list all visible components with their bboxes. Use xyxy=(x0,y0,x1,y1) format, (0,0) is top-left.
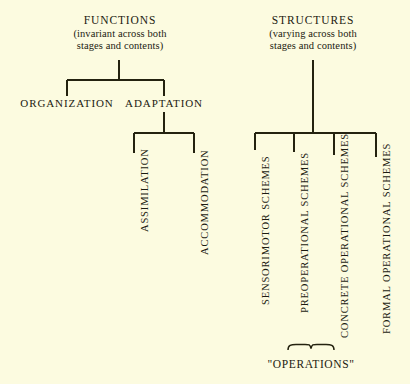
structures-title: STRUCTURES xyxy=(243,14,383,28)
node-preoperational-schemes: PREOPERATIONAL SCHEMES xyxy=(299,152,310,313)
functions-heading: FUNCTIONS (invariant across both stages … xyxy=(50,14,190,52)
structures-heading: STRUCTURES (varying across both stages a… xyxy=(243,14,383,52)
node-preoperational-schemes-label: PREOPERATIONAL SCHEMES xyxy=(299,152,310,313)
node-sensorimotor-schemes-label: SENSORIMOTOR SCHEMES xyxy=(260,155,271,305)
node-formal-operational-schemes-label: FORMAL OPERATIONAL SCHEMES xyxy=(381,143,392,334)
node-accommodation-label: ACCOMMODATION xyxy=(199,149,210,255)
node-sensorimotor-schemes: SENSORIMOTOR SCHEMES xyxy=(260,155,271,305)
structures-subtitle-line1: (varying across both xyxy=(243,28,383,40)
operations-brace xyxy=(288,344,334,350)
node-assimilation-label: ASSIMILATION xyxy=(139,148,150,232)
operations-brace-label: "OPERATIONS" xyxy=(251,358,371,370)
structures-subtitle-line2: stages and contents) xyxy=(243,40,383,52)
node-adaptation: ADAPTATION xyxy=(113,97,215,109)
functions-title: FUNCTIONS xyxy=(50,14,190,28)
node-organization-label: ORGANIZATION xyxy=(20,97,113,109)
functions-subtitle-line1: (invariant across both xyxy=(50,28,190,40)
operations-brace-label-text: "OPERATIONS" xyxy=(268,358,355,370)
diagram-canvas: FUNCTIONS (invariant across both stages … xyxy=(0,0,410,384)
node-organization: ORGANIZATION xyxy=(12,97,122,109)
node-formal-operational-schemes: FORMAL OPERATIONAL SCHEMES xyxy=(381,143,392,334)
node-accommodation: ACCOMMODATION xyxy=(199,149,210,255)
node-concrete-operational-schemes: CONCRETE OPERATIONAL SCHEMES xyxy=(339,133,350,338)
node-concrete-operational-schemes-label: CONCRETE OPERATIONAL SCHEMES xyxy=(339,133,350,338)
node-assimilation: ASSIMILATION xyxy=(139,148,150,232)
functions-subtitle-line2: stages and contents) xyxy=(50,40,190,52)
node-adaptation-label: ADAPTATION xyxy=(125,97,203,109)
